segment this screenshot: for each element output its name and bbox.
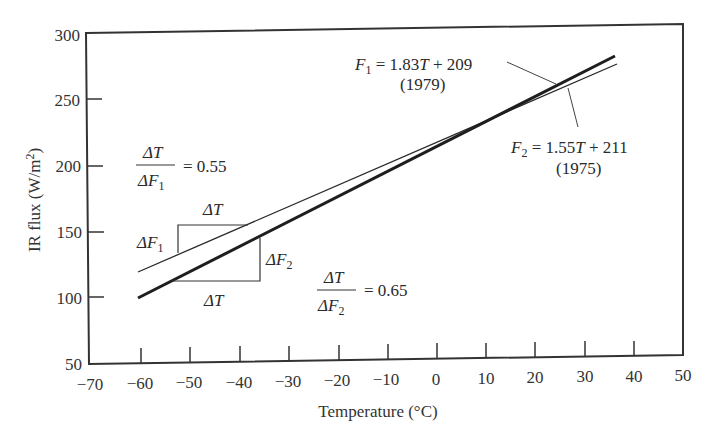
svg-text:(1975): (1975) bbox=[556, 159, 601, 178]
f1-equation-label: F1 = 1.83T + 209 (1979) bbox=[354, 55, 556, 94]
svg-text:−30: −30 bbox=[275, 372, 302, 391]
svg-text:ΔT: ΔT bbox=[323, 268, 345, 287]
svg-text:50: 50 bbox=[65, 355, 82, 374]
svg-text:−40: −40 bbox=[226, 373, 253, 392]
svg-text:50: 50 bbox=[675, 366, 692, 385]
tri1-side-label: ΔF1 bbox=[136, 233, 163, 255]
tri2-bottom-label: ΔT bbox=[203, 291, 225, 310]
svg-text:10: 10 bbox=[478, 369, 495, 388]
svg-text:30: 30 bbox=[577, 367, 594, 386]
svg-text:−60: −60 bbox=[127, 374, 154, 393]
svg-text:−70: −70 bbox=[77, 375, 104, 394]
x-tick-labels: −70 −60 −50 −40 −30 −20 −10 0 10 20 30 4… bbox=[77, 366, 692, 394]
tri1-top-label: ΔT bbox=[202, 200, 224, 219]
svg-text:150: 150 bbox=[57, 223, 83, 242]
svg-text:300: 300 bbox=[55, 26, 81, 45]
ratio-annotation-1: ΔT ΔF1 = 0.55 bbox=[136, 143, 227, 193]
svg-text:(1979): (1979) bbox=[400, 75, 445, 94]
y-axis-title: IR flux (W/m2) bbox=[23, 148, 44, 252]
svg-text:20: 20 bbox=[527, 368, 544, 387]
svg-text:= 0.65: = 0.65 bbox=[364, 281, 408, 300]
svg-text:ΔF2: ΔF2 bbox=[317, 296, 344, 318]
svg-text:F1 = 1.83T + 209: F1 = 1.83T + 209 bbox=[354, 55, 472, 77]
svg-text:0: 0 bbox=[432, 370, 441, 389]
tri2-side-label: ΔF2 bbox=[265, 250, 292, 272]
svg-text:−20: −20 bbox=[324, 371, 351, 390]
svg-text:250: 250 bbox=[55, 91, 81, 110]
svg-text:= 0.55: = 0.55 bbox=[183, 157, 227, 176]
svg-text:ΔT: ΔT bbox=[142, 143, 164, 162]
svg-text:−50: −50 bbox=[176, 373, 203, 392]
ratio-annotation-2: ΔT ΔF2 = 0.65 bbox=[317, 268, 408, 318]
x-axis-title: Temperature (°C) bbox=[318, 402, 437, 421]
chart-canvas: 300 250 200 150 100 50 −70 −60 −50 −40 −… bbox=[0, 0, 708, 439]
svg-text:F2 = 1.55T + 211: F2 = 1.55T + 211 bbox=[510, 138, 628, 160]
svg-text:100: 100 bbox=[57, 289, 83, 308]
plot-frame bbox=[86, 24, 683, 364]
svg-text:40: 40 bbox=[626, 367, 643, 386]
svg-text:ΔF1: ΔF1 bbox=[137, 171, 164, 193]
y-tick-labels: 300 250 200 150 100 50 bbox=[55, 26, 83, 374]
series-f1-line-1979 bbox=[138, 56, 615, 298]
svg-text:−10: −10 bbox=[373, 370, 400, 389]
svg-text:200: 200 bbox=[56, 157, 82, 176]
